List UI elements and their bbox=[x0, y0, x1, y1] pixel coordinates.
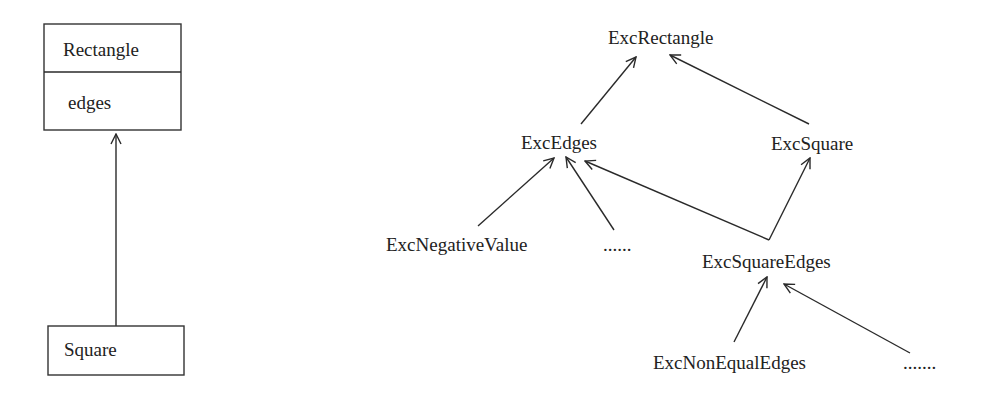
arrow-excsquare-to-excrectangle bbox=[670, 55, 809, 124]
rectangle-class-box: Rectangle edges bbox=[44, 24, 181, 130]
node-exc-rectangle: ExcRectangle bbox=[608, 27, 714, 48]
rectangle-class-name: Rectangle bbox=[63, 39, 139, 60]
square-class-box: Square bbox=[48, 326, 184, 375]
node-exc-square: ExcSquare bbox=[771, 133, 853, 154]
node-exc-non-equal-edges: ExcNonEqualEdges bbox=[653, 352, 806, 373]
square-class-name: Square bbox=[64, 339, 117, 360]
arrow-excsquareedges-to-excsquare bbox=[769, 158, 810, 240]
node-exc-square-edges-more: ....... bbox=[903, 352, 936, 373]
arrow-more-to-excsquareedges bbox=[784, 284, 910, 353]
node-exc-edges-more: ...... bbox=[603, 234, 632, 255]
arrow-excnegativevalue-to-excedges bbox=[478, 158, 554, 226]
diagram-canvas: Rectangle edges Square ExcRectangle ExcE… bbox=[0, 0, 986, 396]
rectangle-attribute-edges: edges bbox=[68, 92, 111, 113]
arrow-excnonequaledges-to-excsquareedges bbox=[734, 277, 767, 342]
arrow-more-to-excedges bbox=[566, 157, 614, 230]
node-exc-negative-value: ExcNegativeValue bbox=[386, 234, 527, 255]
arrow-excedges-to-excrectangle bbox=[581, 57, 636, 124]
node-exc-square-edges: ExcSquareEdges bbox=[702, 251, 831, 272]
node-exc-edges: ExcEdges bbox=[521, 132, 597, 153]
